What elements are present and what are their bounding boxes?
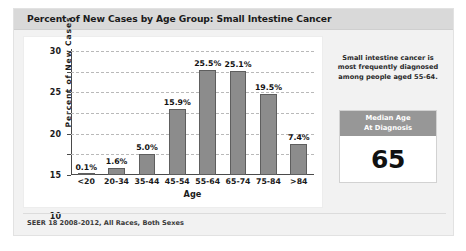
x-axis-tick-labels: <2020-3435-4445-5455-6465-7475-84>84 bbox=[71, 177, 314, 186]
bar-slot: 0.1% bbox=[71, 51, 101, 175]
y-axis-tick-label: 30 bbox=[50, 47, 61, 56]
bar-value-label: 19.5% bbox=[255, 83, 282, 92]
insight-text: Small intestine cancer is most frequentl… bbox=[332, 54, 444, 82]
x-axis-tick-label: 20-34 bbox=[101, 177, 131, 186]
bar-slot: 7.4% bbox=[284, 51, 314, 175]
bar bbox=[78, 173, 95, 175]
plot-area: 051015202530 0.1%1.6%5.0%15.9%25.5%25.1%… bbox=[71, 51, 314, 175]
source-note: SEER 18 2008-2012, All Races, Both Sexes bbox=[27, 219, 184, 227]
bar-series: 0.1%1.6%5.0%15.9%25.5%25.1%19.5%7.4% bbox=[71, 51, 314, 175]
bar-slot: 25.5% bbox=[193, 51, 223, 175]
bar-value-label: 15.9% bbox=[164, 98, 191, 107]
bar-slot: 25.1% bbox=[223, 51, 253, 175]
bar-value-label: 5.0% bbox=[136, 143, 158, 152]
y-axis-tick: 0 bbox=[67, 175, 71, 176]
x-axis-tick-label: 65-74 bbox=[223, 177, 253, 186]
bar bbox=[199, 70, 216, 175]
chart-card: Percent of New Cases by Age Group: Small… bbox=[13, 8, 454, 236]
side-panel: Small intestine cancer is most frequentl… bbox=[330, 36, 446, 208]
x-axis-title: Age bbox=[71, 189, 314, 199]
median-age-header-line2: At Diagnosis bbox=[340, 124, 436, 134]
bar-value-label: 25.1% bbox=[225, 60, 252, 69]
bar bbox=[139, 154, 156, 175]
bar-value-label: 25.5% bbox=[194, 59, 221, 68]
chart-panel: Percent of New Cases 051015202530 0.1%1.… bbox=[23, 36, 323, 208]
bar-value-label: 0.1% bbox=[75, 163, 97, 172]
bar bbox=[290, 144, 307, 175]
y-axis-tick-label: 15 bbox=[50, 171, 61, 180]
bar-value-label: 7.4% bbox=[288, 133, 310, 142]
x-axis-tick-label: >84 bbox=[284, 177, 314, 186]
footer-divider bbox=[23, 213, 446, 214]
x-axis-tick-label: 35-44 bbox=[132, 177, 162, 186]
bar-value-label: 1.6% bbox=[106, 157, 128, 166]
x-axis-tick-label: <20 bbox=[71, 177, 101, 186]
bar-slot: 1.6% bbox=[101, 51, 131, 175]
bar bbox=[260, 94, 277, 175]
median-age-value: 65 bbox=[340, 136, 436, 182]
y-axis-tick-label: 25 bbox=[50, 88, 61, 97]
bar-slot: 19.5% bbox=[253, 51, 283, 175]
x-axis-tick-label: 75-84 bbox=[253, 177, 283, 186]
bar bbox=[108, 168, 125, 175]
y-axis-tick-label: 20 bbox=[50, 129, 61, 138]
bar bbox=[230, 71, 247, 175]
median-age-header-line1: Median Age bbox=[340, 114, 436, 124]
median-age-box: Median Age At Diagnosis 65 bbox=[339, 110, 437, 183]
x-axis-tick-label: 45-54 bbox=[162, 177, 192, 186]
bar-slot: 5.0% bbox=[132, 51, 162, 175]
x-axis-tick-label: 55-64 bbox=[193, 177, 223, 186]
median-age-header: Median Age At Diagnosis bbox=[340, 111, 436, 136]
page-title: Percent of New Cases by Age Group: Small… bbox=[27, 13, 331, 24]
title-band: Percent of New Cases by Age Group: Small… bbox=[14, 9, 453, 30]
bar-slot: 15.9% bbox=[162, 51, 192, 175]
bar bbox=[169, 109, 186, 175]
